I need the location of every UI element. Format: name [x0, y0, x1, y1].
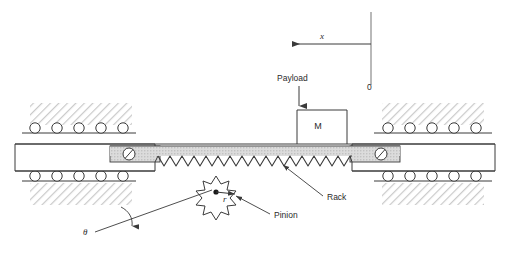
- rack-leader-line: [283, 165, 323, 196]
- rack-teeth-profile: [158, 156, 352, 166]
- pinion-callout: Pinion: [236, 196, 298, 220]
- pinion-leader-line: [236, 196, 270, 214]
- x-axis-label: x: [319, 31, 324, 41]
- pinion-radius-label: r: [223, 194, 227, 204]
- rack-callout: Rack: [283, 165, 347, 202]
- payload-label: Payload: [277, 73, 308, 83]
- diagram-canvas: M Payload x 0 r θ Rac: [0, 0, 508, 255]
- payload-callout: Payload: [277, 73, 308, 106]
- theta-rotation-arc: [121, 207, 132, 226]
- rack-grey-span: [110, 146, 400, 156]
- origin-label: 0: [367, 82, 372, 92]
- pinion-star-outline: [196, 176, 236, 220]
- rack-label: Rack: [327, 192, 347, 202]
- rack-right-pin-symbol: [375, 148, 387, 160]
- pinion-label: Pinion: [274, 210, 298, 220]
- right-lower-hatch-block: [382, 183, 484, 205]
- pinion-gear: r: [196, 176, 236, 220]
- rack-pinion-diagram: M Payload x 0 r θ Rac: [0, 0, 508, 255]
- left-lower-hatch-block: [30, 183, 132, 205]
- left-upper-hatch-block: [30, 103, 132, 125]
- theta-label: θ: [83, 227, 88, 237]
- left-lower-rollers: [30, 171, 128, 181]
- rack-left-pin-symbol: [123, 148, 135, 160]
- mass-block-outline: [297, 110, 347, 144]
- right-upper-hatch-block: [382, 103, 484, 125]
- mass-block-label: M: [314, 121, 322, 131]
- right-lower-rollers: [383, 171, 481, 181]
- payload-mass-block: M: [297, 110, 347, 144]
